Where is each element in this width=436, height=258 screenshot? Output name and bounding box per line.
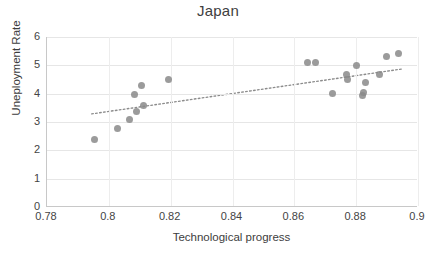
scatter-chart: Japan Uneployment Rate 0123456 0.780.80.…: [0, 0, 436, 258]
data-point: [91, 136, 98, 143]
gridline-vertical: [233, 37, 234, 206]
gridline-vertical: [418, 37, 419, 206]
x-tick-label: 0.9: [394, 210, 436, 222]
data-point: [114, 125, 121, 132]
data-point: [395, 50, 402, 57]
y-tick-label: 2: [14, 143, 40, 155]
y-tick-label: 4: [14, 87, 40, 99]
y-tick-label: 1: [14, 172, 40, 184]
data-point: [165, 76, 172, 83]
data-point: [312, 59, 319, 66]
data-point: [131, 91, 138, 98]
data-point: [329, 90, 336, 97]
x-tick-label: 0.88: [332, 210, 378, 222]
data-point: [353, 62, 360, 69]
y-tick-label: 6: [14, 30, 40, 42]
gridline-vertical: [294, 37, 295, 206]
x-tick-label: 0.82: [147, 210, 193, 222]
y-tick-label: 3: [14, 115, 40, 127]
y-tick-label: 5: [14, 58, 40, 70]
data-point: [133, 108, 140, 115]
x-axis-tick-labels: 0.780.80.820.840.860.880.9: [46, 210, 417, 226]
plot-area: [46, 37, 417, 207]
data-point: [344, 76, 351, 83]
data-point: [126, 116, 133, 123]
x-tick-label: 0.84: [209, 210, 255, 222]
x-tick-label: 0.78: [23, 210, 69, 222]
gridline-vertical: [171, 37, 172, 206]
data-point: [362, 79, 369, 86]
data-point: [376, 71, 383, 78]
chart-title: Japan: [0, 2, 436, 19]
data-point: [360, 89, 367, 96]
y-axis-tick-labels: 0123456: [8, 37, 40, 207]
x-tick-label: 0.86: [270, 210, 316, 222]
data-point: [138, 82, 145, 89]
x-tick-label: 0.8: [85, 210, 131, 222]
x-axis-title: Technological progress: [46, 231, 417, 243]
data-point: [140, 102, 147, 109]
data-point: [383, 53, 390, 60]
gridline-vertical: [109, 37, 110, 206]
